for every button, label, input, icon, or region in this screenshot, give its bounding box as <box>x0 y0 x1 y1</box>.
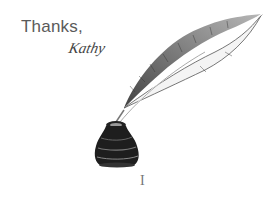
inkwell-icon <box>95 121 139 168</box>
feather-icon <box>112 14 262 128</box>
quill-inkwell-illustration <box>0 0 280 200</box>
text-cursor-icon: I <box>140 173 145 189</box>
